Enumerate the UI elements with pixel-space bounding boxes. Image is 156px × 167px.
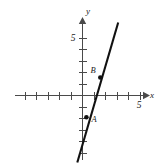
data-point-b [98,75,103,80]
coordinate-plane-plot: y x 5 5 B A [0,0,156,167]
chart-figure: y x 5 5 B A [0,0,156,167]
x-axis-tick-label-5: 5 [137,100,142,110]
x-axis-label: x [149,90,154,100]
y-axis-tick-label-5: 5 [71,33,76,43]
data-point-a [84,115,89,120]
plotted-line-through-a-b [77,23,118,163]
y-axis-label: y [85,6,90,16]
point-label-a: A [90,114,97,124]
point-label-b: B [90,65,95,75]
y-axis-arrow-icon [79,17,86,24]
x-axis-arrow-icon [143,92,150,99]
